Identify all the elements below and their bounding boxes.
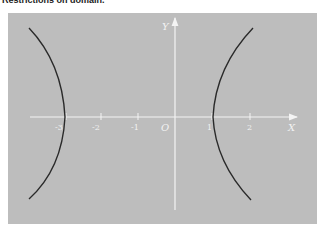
hyperbola-graph: -3 -2 -1 1 2 O X Y (0, 0, 323, 232)
y-axis-label: Y (162, 21, 170, 32)
origin-label: O (161, 122, 169, 133)
left-branch-curve (29, 28, 65, 199)
x-axis-label: X (287, 122, 296, 133)
tick-label: 1 (207, 123, 212, 132)
tick-label: -3 (55, 123, 63, 132)
right-branch-curve (213, 28, 253, 200)
tick-label: -1 (131, 123, 139, 132)
tick-label: -2 (92, 123, 100, 132)
tick-label: 2 (247, 123, 252, 132)
